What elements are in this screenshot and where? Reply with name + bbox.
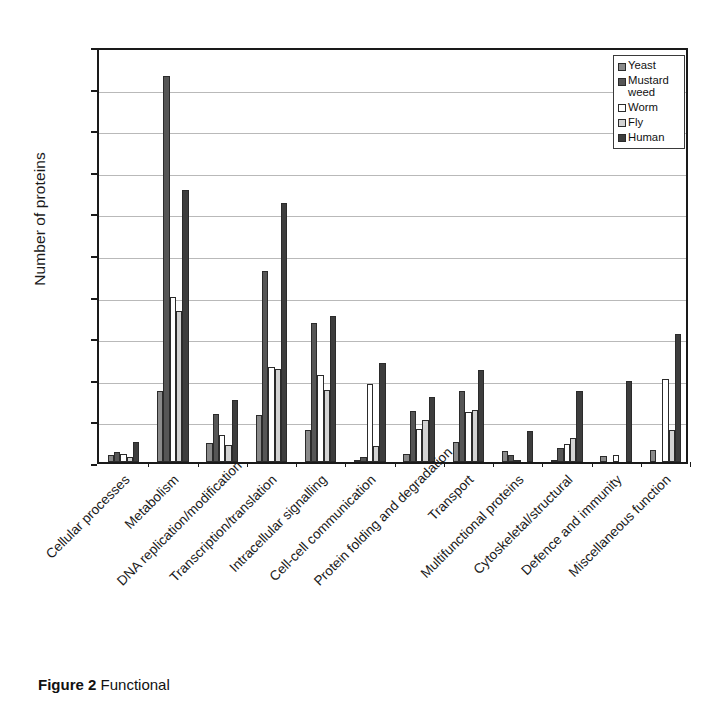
bar <box>232 400 238 462</box>
legend-label: Mustard weed <box>628 75 681 98</box>
legend-item-yeast[interactable]: Yeast <box>618 60 681 72</box>
bar <box>650 450 656 462</box>
legend-swatch-icon <box>618 119 626 127</box>
x-tick-mark <box>444 462 445 467</box>
bar <box>330 316 336 462</box>
x-tick-mark <box>641 462 642 467</box>
legend-swatch-icon <box>618 78 626 86</box>
bar <box>182 190 188 462</box>
chart-legend: YeastMustard weedWormFlyHuman <box>613 55 685 149</box>
x-tick-label: Multifunctional proteins <box>410 472 527 589</box>
legend-label: Yeast <box>628 60 656 72</box>
x-tick-label: Cell-cell communication <box>262 472 379 589</box>
bar-group <box>198 50 247 462</box>
legend-swatch-icon <box>618 104 626 112</box>
legend-label: Fly <box>628 117 643 129</box>
x-tick-mark <box>542 462 543 467</box>
bar-group <box>444 50 493 462</box>
legend-item-mustard-weed[interactable]: Mustard weed <box>618 75 681 98</box>
x-tick-mark <box>296 462 297 467</box>
legend-swatch-icon <box>618 134 626 142</box>
bar <box>613 455 619 462</box>
legend-swatch-icon <box>618 63 626 71</box>
x-tick-label: Transport <box>360 472 477 589</box>
bar-group <box>247 50 296 462</box>
legend-item-worm[interactable]: Worm <box>618 102 681 114</box>
x-tick-mark <box>247 462 248 467</box>
bar <box>675 334 681 462</box>
x-tick-label: Cytoskeletal/structural <box>459 472 576 589</box>
legend-item-fly[interactable]: Fly <box>618 117 681 129</box>
x-tick-mark <box>345 462 346 467</box>
x-tick-mark <box>690 462 691 467</box>
x-tick-mark <box>148 462 149 467</box>
x-tick-label: Cellular processes <box>16 472 133 589</box>
bar-groups <box>99 50 686 462</box>
x-tick-label: Intracellular signalling <box>213 472 330 589</box>
legend-item-human[interactable]: Human <box>618 132 681 144</box>
x-tick-label: DNA replication/modification <box>114 472 231 589</box>
bar <box>478 370 484 462</box>
bar-group <box>345 50 394 462</box>
bar-group <box>99 50 148 462</box>
bar <box>133 442 139 462</box>
bar-group <box>395 50 444 462</box>
bar <box>281 203 287 462</box>
x-tick-label: Miscellaneous function <box>557 472 674 589</box>
bar <box>576 391 582 462</box>
y-axis-title: Number of proteins <box>31 69 49 369</box>
x-tick-mark <box>198 462 199 467</box>
bar <box>429 397 435 462</box>
x-tick-label: Defence and immunity <box>508 472 625 589</box>
plot-area <box>97 48 688 464</box>
legend-label: Human <box>628 132 664 144</box>
bar <box>626 381 632 462</box>
x-tick-mark <box>592 462 593 467</box>
figure-container: Number of proteins 05001,0001,5002,0002,… <box>0 0 728 706</box>
legend-label: Worm <box>628 102 658 114</box>
bar-group <box>148 50 197 462</box>
bar-group <box>296 50 345 462</box>
x-tick-label: Protein folding and degradation <box>311 472 428 589</box>
bar-group <box>542 50 591 462</box>
figure-caption: Figure 2 Functional <box>38 676 698 693</box>
bar <box>600 456 606 462</box>
y-tick-mark <box>91 464 97 466</box>
x-tick-label: Transcription/translation <box>163 472 280 589</box>
figure-caption-label: Figure 2 <box>38 676 96 693</box>
x-tick-label: Metabolism <box>65 472 182 589</box>
bar-group <box>493 50 542 462</box>
bar <box>527 431 533 462</box>
bar <box>379 363 385 462</box>
figure-caption-text: Functional <box>101 676 170 693</box>
bar <box>514 460 520 462</box>
x-tick-mark <box>493 462 494 467</box>
x-tick-mark <box>395 462 396 467</box>
